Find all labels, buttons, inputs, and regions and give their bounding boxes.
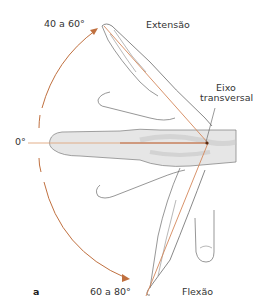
transverse-axis-label: Eixo transversal bbox=[200, 83, 252, 104]
pivot-point bbox=[205, 141, 208, 144]
finger-outline-lower bbox=[96, 170, 185, 198]
neutral-angle-label: 0° bbox=[15, 137, 26, 147]
arc-segment-upper bbox=[39, 115, 40, 128]
extension-label: Extensão bbox=[146, 20, 190, 30]
flexed-hand bbox=[147, 168, 214, 295]
extension-angle-label: 40 a 60° bbox=[44, 19, 85, 29]
extension-arc bbox=[42, 28, 98, 108]
finger-outline-upper bbox=[98, 92, 175, 120]
axis-label-line2: transversal bbox=[200, 93, 252, 103]
flexion-angle-label: 60 a 80° bbox=[90, 287, 131, 297]
extension-axis-line bbox=[104, 26, 208, 143]
arc-segment-lower bbox=[39, 158, 41, 172]
extended-hand bbox=[102, 24, 212, 126]
wrist-range-of-motion-diagram bbox=[0, 0, 255, 308]
flexion-label: Flexão bbox=[182, 287, 213, 297]
panel-label: a bbox=[33, 287, 39, 297]
flexion-arc bbox=[44, 182, 130, 282]
